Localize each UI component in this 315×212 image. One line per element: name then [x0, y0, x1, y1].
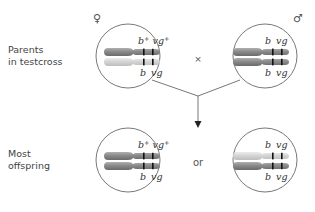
allele-label-top: bvg	[265, 139, 288, 150]
female-symbol-icon: ♀	[93, 12, 101, 25]
cross-connector	[152, 80, 240, 122]
allele-label-top: bvg	[265, 35, 288, 46]
arrow-down-icon	[195, 121, 202, 128]
allele-label-bottom: bvg	[140, 171, 163, 182]
cell-male-parent: bvg bvg	[233, 24, 297, 88]
allele-label-bottom: bvg	[265, 171, 288, 182]
cross-symbol: ×	[194, 54, 202, 64]
cell-female-parent: b+vg+ bvg	[96, 24, 169, 88]
chromosome-light	[233, 152, 289, 160]
chromosome-dark	[233, 162, 289, 170]
testcross-diagram: × or ♀ ♂ b+vg+ bvg bvg bvg b+vg+ bvg bvg…	[0, 0, 315, 212]
male-symbol-icon: ♂	[293, 12, 303, 25]
chromosome-dark	[233, 48, 289, 56]
or-label: or	[193, 157, 204, 168]
chromosome-dark	[104, 162, 160, 170]
connector-line-left	[152, 80, 198, 96]
allele-label-top: b+vg+	[138, 35, 169, 47]
chromosome-dark	[233, 58, 289, 66]
chromosome-dark	[104, 48, 160, 56]
allele-label-bottom: bvg	[140, 67, 163, 78]
cell-offspring-mutant: bvg bvg	[233, 128, 297, 192]
chromosome-light	[104, 58, 160, 66]
connector-line-right	[198, 80, 240, 96]
cell-offspring-wildtype: b+vg+ bvg	[96, 128, 169, 192]
allele-label-bottom: bvg	[265, 67, 288, 78]
chromosome-dark	[104, 152, 160, 160]
allele-label-top: b+vg+	[138, 139, 169, 151]
